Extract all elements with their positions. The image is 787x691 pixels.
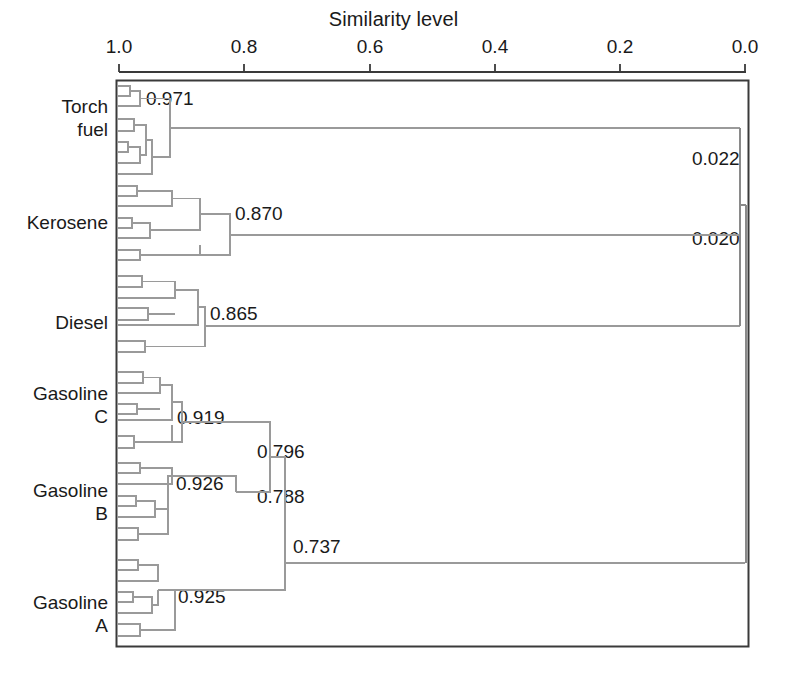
- link-di-3: [117, 308, 148, 320]
- link-ke-6: [117, 250, 140, 260]
- link-ke-7: [140, 245, 200, 255]
- link-gcba-0788: [270, 457, 285, 537]
- dendrogram-plot: [0, 0, 787, 691]
- plot-frame: [117, 81, 749, 647]
- link-gc-6: [117, 436, 134, 448]
- link-gc-1: [117, 372, 143, 383]
- link-ke-2: [117, 191, 172, 206]
- link-ke-root: [140, 214, 230, 255]
- link-ga-3: [117, 592, 133, 602]
- link-ke-3: [117, 218, 132, 228]
- link-di-7: [145, 307, 205, 347]
- link-gb-2: [117, 468, 172, 484]
- link-tf-4: [117, 142, 128, 152]
- link-tf-7: [117, 140, 152, 174]
- link-tf-1: [117, 86, 130, 96]
- link-di-1: [117, 276, 142, 287]
- link-ke-4: [117, 223, 150, 238]
- dendrogram-figure: Similarity level 1.0 0.8 0.6 0.4 0.2 0.0…: [0, 0, 787, 691]
- link-ke-1: [117, 186, 137, 196]
- link-gb-5: [155, 476, 172, 509]
- link-ga-root: [175, 563, 285, 590]
- link-ga-1: [117, 560, 138, 570]
- link-ke-5: [150, 199, 200, 231]
- dendrogram-links: [117, 86, 746, 636]
- link-tf-3: [117, 119, 134, 131]
- link-di-2: [117, 282, 175, 299]
- link-gb-7: [138, 509, 168, 534]
- link-ga-5: [152, 590, 158, 605]
- link-gc-3: [117, 404, 137, 414]
- link-tf-root: [140, 99, 170, 158]
- link-ga-6: [117, 624, 140, 636]
- axis-line-group: [119, 64, 746, 72]
- link-tf-2: [117, 91, 140, 106]
- link-gc-5: [117, 385, 172, 420]
- link-di-root: [198, 307, 205, 326]
- link-gc-7: [134, 425, 172, 442]
- link-gb-1: [117, 463, 140, 473]
- link-gc-2: [117, 378, 160, 394]
- link-gb-root: [172, 476, 236, 492]
- link-gcb-0796: [182, 422, 270, 492]
- link-gb-6: [117, 528, 138, 540]
- link-ga-4: [117, 597, 152, 613]
- link-di-6: [117, 341, 145, 352]
- link-gb-3: [117, 496, 136, 506]
- link-gc-root: [134, 402, 182, 442]
